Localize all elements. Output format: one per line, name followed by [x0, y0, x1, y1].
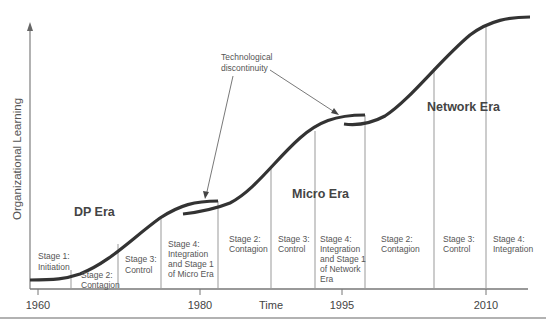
annotation-arrow-2	[270, 70, 336, 113]
stage-label: Stage 4: Integration and Stage 1 of Micr…	[168, 239, 216, 279]
arrowhead-icon	[331, 108, 339, 115]
era-label-network: Network Era	[427, 100, 501, 114]
stage-label: Stage 4: Integration and Stage 1 of Netw…	[320, 234, 368, 284]
stage-label: Stage 4: Integration	[493, 234, 533, 254]
y-axis-label: Organizational Learning	[11, 98, 23, 220]
y-axis-arrow-icon	[27, 22, 33, 31]
stage-label: Stage 3: Control	[278, 234, 312, 254]
stage-label: Stage 3: Control	[125, 254, 159, 275]
annotation-text: Technological discontinuity	[221, 52, 275, 73]
era-label-micro: Micro Era	[292, 187, 350, 201]
stages-of-growth-diagram: Technological discontinuity DP Era Micro…	[0, 0, 546, 327]
era-label-dp: DP Era	[74, 205, 116, 219]
stage-label: Stage 1: Initiation	[38, 251, 72, 272]
x-tick-label-2010: 2010	[474, 299, 498, 311]
stage-label: Stage 2: Contagion	[381, 234, 420, 254]
stage-label: Stage 3: Control	[443, 234, 477, 254]
x-tick-label-1995: 1995	[330, 299, 354, 311]
stage-label: Stage 2: Contagion	[81, 270, 120, 290]
x-axis-label: Time	[259, 299, 283, 311]
stage-label: Stage 2: Contagion	[229, 234, 268, 254]
x-tick-label-1980: 1980	[188, 299, 212, 311]
x-tick-label-1960: 1960	[26, 299, 50, 311]
annotation-arrow-1	[206, 76, 233, 196]
arrowhead-icon	[203, 191, 209, 199]
